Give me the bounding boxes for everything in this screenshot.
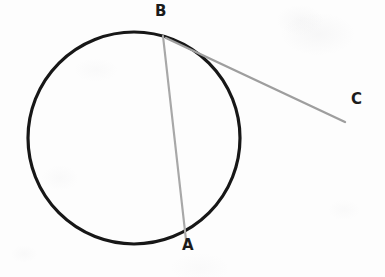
- secant-line-bc: [166, 38, 345, 122]
- point-label-b: B: [155, 4, 167, 19]
- point-label-c: C: [351, 92, 362, 107]
- circle-outline: [28, 32, 240, 244]
- point-label-a: A: [182, 238, 194, 253]
- geometry-diagram: B A C: [0, 0, 385, 277]
- chord-line-ba: [163, 36, 186, 240]
